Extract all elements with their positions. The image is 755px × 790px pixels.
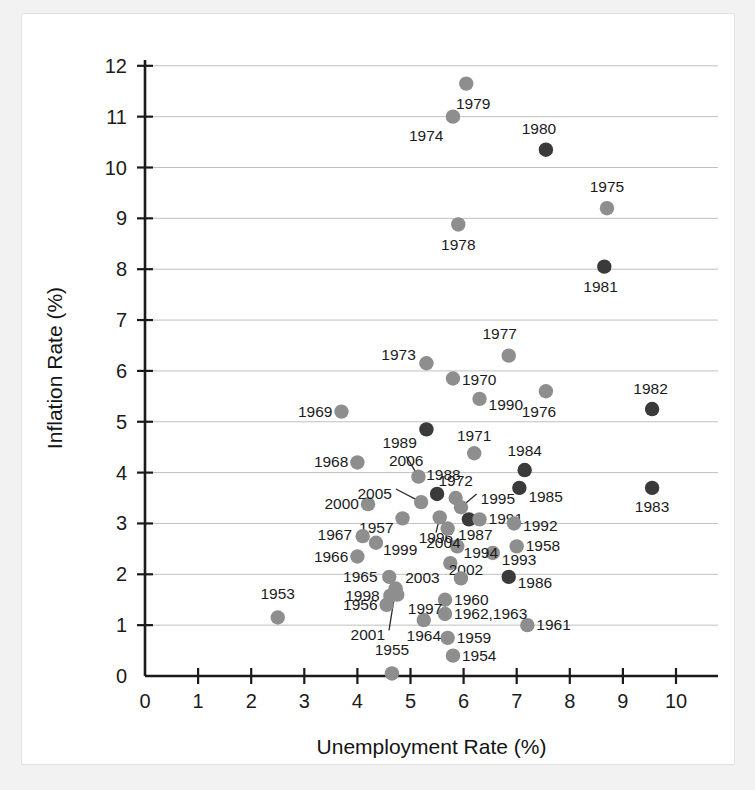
point-marker[interactable] <box>350 455 364 469</box>
point-marker[interactable] <box>459 76 473 90</box>
data-point[interactable]: 1971 <box>457 427 491 460</box>
point-marker[interactable] <box>446 648 460 662</box>
point-label: 1966 <box>314 548 348 565</box>
point-marker[interactable] <box>350 549 364 563</box>
data-point[interactable]: 1966 <box>314 548 365 565</box>
point-label: 1982 <box>633 380 667 397</box>
y-tick-label: 4 <box>116 462 127 484</box>
point-label: 1983 <box>635 498 669 515</box>
data-point[interactable]: 1989 <box>382 422 433 451</box>
point-label: 1995 <box>481 490 515 507</box>
data-point[interactable]: 1954 <box>446 647 497 664</box>
data-point[interactable]: 1990 <box>472 392 523 414</box>
point-label: 1987 <box>458 526 492 543</box>
point-marker[interactable] <box>517 463 531 477</box>
point-marker[interactable] <box>451 217 465 231</box>
point-label: 2006 <box>389 452 423 469</box>
figure-page: 0123456789100123456789101112Unemployment… <box>0 0 755 790</box>
data-point[interactable]: 1969 <box>298 403 349 420</box>
point-label: 1974 <box>409 127 444 144</box>
point-marker[interactable] <box>388 581 402 595</box>
point-label: 1970 <box>462 371 497 388</box>
point-marker[interactable] <box>411 469 425 483</box>
data-point[interactable]: 1984 <box>507 442 542 477</box>
data-point[interactable]: 1986 <box>502 570 553 592</box>
point-marker[interactable] <box>597 259 611 273</box>
data-point[interactable]: 1955 <box>375 641 409 681</box>
data-point[interactable]: 1982 <box>633 380 667 417</box>
point-label: 2003 <box>405 569 439 586</box>
point-marker[interactable] <box>502 348 516 362</box>
point-label: 1978 <box>441 236 475 253</box>
point-marker[interactable] <box>385 666 399 680</box>
data-point[interactable]: 1992 <box>507 516 558 534</box>
data-point[interactable]: 1970 <box>446 371 497 388</box>
data-point[interactable]: 1968 <box>314 453 365 470</box>
point-marker[interactable] <box>472 512 486 526</box>
data-point[interactable]: 1973 <box>381 346 433 371</box>
point-label: 1954 <box>462 647 497 664</box>
point-marker[interactable] <box>472 392 486 406</box>
point-label: 1980 <box>522 120 557 137</box>
y-tick-label: 9 <box>116 207 127 229</box>
data-point[interactable]: 1977 <box>482 325 516 363</box>
data-point[interactable]: 1974 <box>409 109 460 144</box>
point-label: 1994 <box>464 544 499 561</box>
y-tick-label: 2 <box>116 563 127 585</box>
data-point[interactable]: 1978 <box>441 217 475 253</box>
point-marker[interactable] <box>271 610 285 624</box>
x-tick-label: 4 <box>352 690 363 712</box>
x-tick-label: 8 <box>564 690 575 712</box>
data-point[interactable]: 1959 <box>440 629 491 646</box>
point-label: 1986 <box>518 574 552 591</box>
point-marker[interactable] <box>395 511 409 525</box>
point-marker[interactable] <box>419 422 433 436</box>
point-label: 1959 <box>457 629 491 646</box>
point-marker[interactable] <box>414 495 428 509</box>
data-point[interactable]: 1961 <box>520 616 571 633</box>
point-marker[interactable] <box>600 201 614 215</box>
point-label: 1990 <box>489 396 524 413</box>
data-point[interactable]: 1981 <box>583 259 617 295</box>
y-tick-label: 12 <box>105 55 127 77</box>
point-marker[interactable] <box>539 143 553 157</box>
point-label: 1993 <box>502 551 536 568</box>
point-marker[interactable] <box>440 631 454 645</box>
point-label: 1989 <box>382 434 416 451</box>
data-point[interactable]: 2003 <box>405 569 468 586</box>
y-tick-label: 10 <box>105 157 127 179</box>
point-label: 1977 <box>482 325 516 342</box>
data-point[interactable]: 1985 <box>512 481 563 505</box>
point-marker[interactable] <box>446 371 460 385</box>
point-marker[interactable] <box>645 481 659 495</box>
data-point[interactable]: 1975 <box>590 178 624 216</box>
x-tick-label: 6 <box>458 690 469 712</box>
point-label: 1968 <box>314 453 348 470</box>
point-marker[interactable] <box>419 356 433 370</box>
point-marker[interactable] <box>539 384 553 398</box>
point-label: 1971 <box>457 427 491 444</box>
data-point[interactable]: 1965 <box>343 568 396 585</box>
point-marker[interactable] <box>467 446 481 460</box>
point-marker[interactable] <box>430 487 444 501</box>
data-point[interactable]: 2006 <box>389 452 426 483</box>
data-point[interactable]: 1976 <box>522 384 556 420</box>
point-marker[interactable] <box>454 571 468 585</box>
point-marker[interactable] <box>454 500 468 514</box>
point-marker[interactable] <box>502 570 516 584</box>
data-point[interactable]: 1999 <box>369 536 418 558</box>
data-point[interactable]: 1980 <box>522 120 557 157</box>
x-tick-label: 5 <box>405 690 416 712</box>
point-marker[interactable] <box>334 404 348 418</box>
data-point[interactable]: 1962,1963 <box>438 605 528 622</box>
point-marker[interactable] <box>645 402 659 416</box>
data-point[interactable]: 2004 <box>426 521 461 550</box>
point-marker[interactable] <box>356 529 370 543</box>
point-marker[interactable] <box>507 516 521 530</box>
data-point[interactable]: 1983 <box>635 481 669 516</box>
x-axis-title: Unemployment Rate (%) <box>317 735 547 758</box>
data-point[interactable]: 1953 <box>261 585 295 625</box>
data-point[interactable]: 1964 <box>407 613 442 644</box>
point-marker[interactable] <box>369 536 383 550</box>
data-point[interactable]: 1979 <box>456 76 490 112</box>
